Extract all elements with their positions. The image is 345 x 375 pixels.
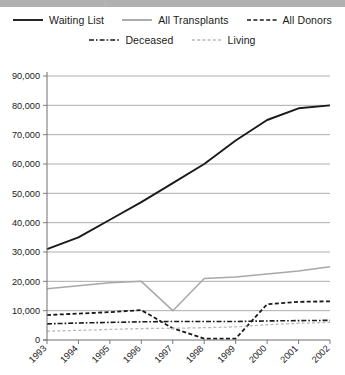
- top-strip-segment: [107, 0, 345, 7]
- legend-item-label: Waiting List: [49, 14, 104, 26]
- chart-legend: Waiting ListAll TransplantsAll Donors De…: [0, 10, 345, 54]
- y-axis-tick-label: 60,000: [12, 159, 40, 169]
- legend-item[interactable]: Deceased: [89, 34, 173, 46]
- x-axis-tick-label: 1995: [90, 343, 112, 365]
- legend-item[interactable]: All Transplants: [122, 14, 228, 26]
- y-axis-tick-label: 70,000: [12, 130, 40, 140]
- x-axis-tick-label: 1998: [184, 343, 206, 365]
- legend-item[interactable]: Living: [192, 34, 256, 46]
- legend-row-2: DeceasedLiving: [0, 30, 345, 50]
- dashed-line-icon: [192, 35, 222, 45]
- line-chart-svg: 010,00020,00030,00040,00050,00060,00070,…: [0, 56, 345, 375]
- x-axis-tick-label: 2001: [278, 343, 300, 365]
- chart-plot-area: 010,00020,00030,00040,00050,00060,00070,…: [0, 56, 345, 375]
- legend-item-label: Living: [228, 34, 256, 46]
- x-axis-tick-label: 1999: [216, 343, 238, 365]
- dashed-line-icon: [247, 15, 277, 25]
- legend-item-label: All Transplants: [158, 14, 228, 26]
- y-axis-tick-label: 90,000: [12, 71, 40, 81]
- y-axis-tick-label: 40,000: [12, 218, 40, 228]
- legend-item-label: Deceased: [125, 34, 173, 46]
- series-line: [47, 105, 330, 249]
- y-axis-tick-label: 30,000: [12, 247, 40, 257]
- legend-row-1: Waiting ListAll TransplantsAll Donors: [0, 10, 345, 30]
- x-axis-ticks: [47, 340, 330, 344]
- series-line: [47, 322, 330, 331]
- legend-item[interactable]: Waiting List: [13, 14, 104, 26]
- y-axis-tick-label: 50,000: [12, 189, 40, 199]
- gridlines: [47, 76, 330, 311]
- x-axis-tick-label: 1996: [121, 343, 143, 365]
- dash-dot-line-icon: [89, 35, 119, 45]
- solid-line-icon: [122, 15, 152, 25]
- x-axis-labels: 1993199419951996199719981999200020012002: [27, 343, 332, 365]
- y-axis-tick-label: 80,000: [12, 101, 40, 111]
- x-axis-tick-label: 1994: [58, 343, 80, 365]
- x-axis-tick-label: 1997: [153, 343, 175, 365]
- series-line: [47, 301, 330, 338]
- y-axis-labels: 010,00020,00030,00040,00050,00060,00070,…: [12, 71, 40, 345]
- series-line: [47, 267, 330, 311]
- top-strip-segment: [0, 0, 104, 7]
- x-axis-tick-label: 1993: [27, 343, 49, 365]
- data-series: [47, 105, 330, 338]
- x-axis-tick-label: 2002: [310, 343, 332, 365]
- x-axis-tick-label: 2000: [247, 343, 269, 365]
- solid-line-icon: [13, 15, 43, 25]
- y-axis-ticks: [43, 76, 47, 340]
- y-axis-tick-label: 20,000: [12, 277, 40, 287]
- legend-item[interactable]: All Donors: [247, 14, 332, 26]
- top-window-strip: [0, 0, 345, 7]
- legend-item-label: All Donors: [283, 14, 332, 26]
- y-axis-tick-label: 0: [35, 335, 40, 345]
- y-axis-tick-label: 10,000: [12, 306, 40, 316]
